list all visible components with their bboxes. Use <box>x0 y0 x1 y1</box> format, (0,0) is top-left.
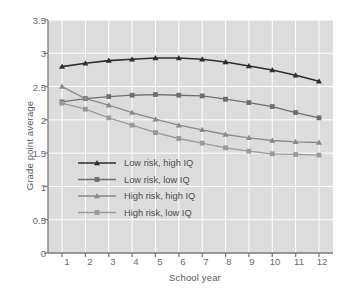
data-point-marker <box>153 92 158 97</box>
data-point-marker <box>247 149 252 154</box>
data-point-marker <box>223 145 228 150</box>
data-point-marker <box>293 110 298 115</box>
data-point-marker <box>317 153 322 158</box>
plot-background <box>48 20 333 253</box>
data-point-marker <box>60 101 65 106</box>
data-point-marker <box>106 115 111 120</box>
data-point-marker <box>247 100 252 105</box>
data-point-marker <box>130 123 135 128</box>
legend-label: Low risk, high IQ <box>124 158 193 168</box>
data-point-marker <box>270 151 275 156</box>
data-point-marker <box>293 152 298 157</box>
legend-label: Low risk, low IQ <box>124 175 190 185</box>
legend-marker <box>95 210 100 215</box>
plot-area: Low risk, high IQLow risk, low IQHigh ri… <box>0 0 349 297</box>
data-point-marker <box>200 141 205 146</box>
legend-label: High risk, low IQ <box>124 208 192 218</box>
chart-figure: 3.5 3 2.5 2 1.5 1 0.5 0 Grade point aver… <box>0 0 349 297</box>
data-point-marker <box>83 107 88 112</box>
data-point-marker <box>106 94 111 99</box>
data-point-marker <box>317 115 322 120</box>
data-point-marker <box>223 97 228 102</box>
data-point-marker <box>130 93 135 98</box>
data-point-marker <box>176 136 181 141</box>
data-point-marker <box>153 130 158 135</box>
legend-label: High risk, high IQ <box>124 191 195 201</box>
data-point-marker <box>270 104 275 109</box>
legend-marker <box>95 177 100 182</box>
data-point-marker <box>200 93 205 98</box>
data-point-marker <box>176 93 181 98</box>
